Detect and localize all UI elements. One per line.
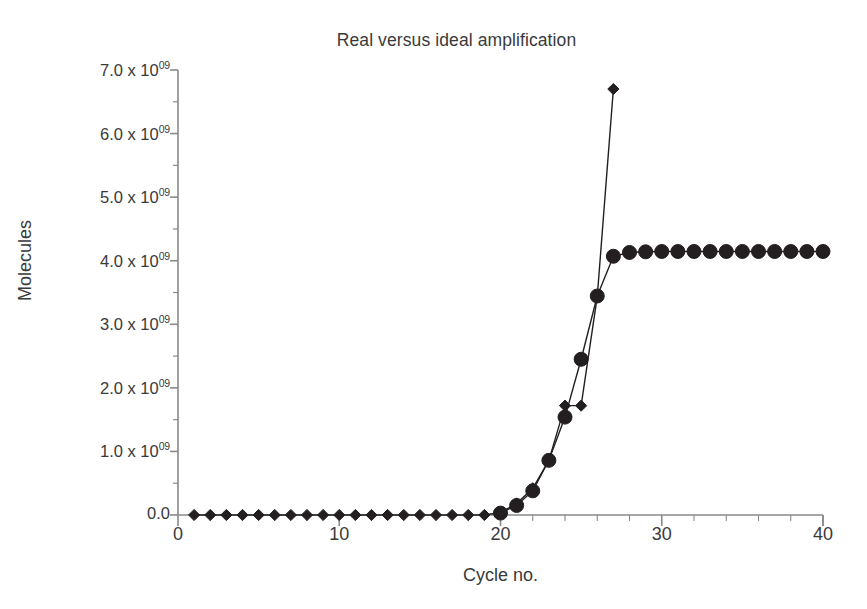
marker-diamond: [253, 509, 264, 520]
marker-circle: [800, 244, 814, 258]
series-line-ideal: [194, 89, 613, 515]
marker-circle: [542, 453, 556, 467]
series-line-real: [501, 252, 824, 514]
marker-diamond: [608, 83, 619, 94]
series-ideal: [189, 83, 619, 520]
marker-diamond: [318, 509, 329, 520]
series-real: [494, 244, 831, 520]
marker-circle: [574, 352, 588, 366]
marker-diamond: [479, 509, 490, 520]
marker-circle: [768, 244, 782, 258]
marker-diamond: [447, 509, 458, 520]
marker-circle: [703, 244, 717, 258]
chart-figure: Real versus ideal amplification Molecule…: [0, 0, 867, 609]
marker-circle: [784, 244, 798, 258]
marker-circle: [816, 244, 830, 258]
marker-diamond: [430, 509, 441, 520]
marker-circle: [671, 244, 685, 258]
marker-diamond: [398, 509, 409, 520]
plot-area: [0, 0, 867, 609]
marker-circle: [735, 244, 749, 258]
marker-circle: [687, 244, 701, 258]
marker-circle: [526, 484, 540, 498]
marker-diamond: [237, 509, 248, 520]
marker-diamond: [576, 400, 587, 411]
marker-diamond: [382, 509, 393, 520]
marker-diamond: [463, 509, 474, 520]
data-series: [189, 83, 830, 520]
marker-circle: [510, 498, 524, 512]
marker-circle: [719, 244, 733, 258]
marker-diamond: [366, 509, 377, 520]
marker-circle: [752, 244, 766, 258]
axes: [170, 70, 823, 526]
marker-circle: [606, 249, 620, 263]
marker-diamond: [414, 509, 425, 520]
marker-diamond: [221, 509, 232, 520]
marker-circle: [623, 245, 637, 259]
marker-diamond: [285, 509, 296, 520]
marker-diamond: [334, 509, 345, 520]
marker-diamond: [269, 509, 280, 520]
marker-circle: [558, 410, 572, 424]
marker-circle: [494, 506, 508, 520]
marker-circle: [639, 245, 653, 259]
marker-diamond: [205, 509, 216, 520]
marker-diamond: [350, 509, 361, 520]
marker-circle: [590, 289, 604, 303]
marker-diamond: [301, 509, 312, 520]
marker-circle: [655, 244, 669, 258]
marker-diamond: [189, 509, 200, 520]
